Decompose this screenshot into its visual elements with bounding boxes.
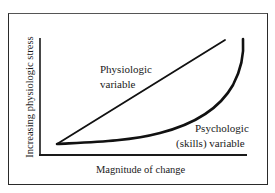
psychologic-label-line1: Psychologic — [195, 122, 249, 135]
y-axis-label: Increasing physiologic stress — [24, 36, 35, 157]
physiologic-label-line1: Physiologic — [100, 63, 152, 76]
psychologic-label-line2: (skills) variable — [176, 137, 245, 150]
physiologic-label-line2: variable — [100, 78, 135, 91]
x-axis-label: Magnitude of change — [96, 163, 185, 176]
